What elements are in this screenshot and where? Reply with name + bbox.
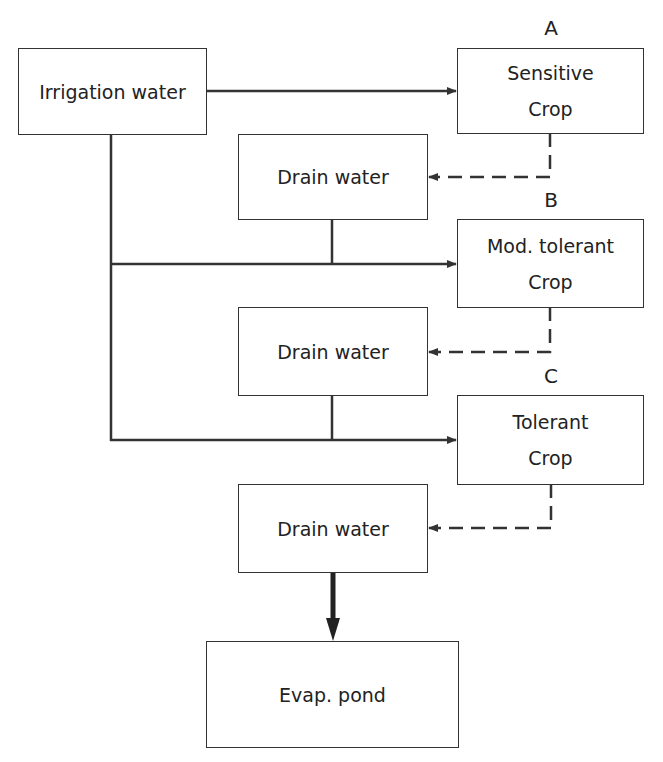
sensitive-crop-line2: Crop (528, 91, 572, 127)
sensitive-crop-node: Sensitive Crop (457, 48, 644, 134)
evap-pond-node: Evap. pond (206, 641, 459, 748)
drain-water-label-3: Drain water (277, 511, 389, 547)
tag-a: A (536, 16, 566, 40)
irrigation-water-label: Irrigation water (39, 74, 185, 110)
mod-tolerant-crop-node: Mod. tolerant Crop (457, 219, 644, 308)
tolerant-crop-line1: Tolerant (513, 404, 589, 440)
drain-water-node-2: Drain water (238, 307, 428, 396)
mod-tolerant-crop-line1: Mod. tolerant (487, 228, 614, 264)
tolerant-crop-node: Tolerant Crop (457, 395, 644, 485)
dashed-sensitive-to-drain1 (429, 133, 550, 177)
thick-arrowhead (326, 618, 340, 641)
drain-water-node-1: Drain water (238, 134, 428, 220)
drain-water-label-1: Drain water (277, 159, 389, 195)
mod-tolerant-crop-line2: Crop (528, 264, 572, 300)
evap-pond-label: Evap. pond (279, 677, 386, 713)
dashed-tolerant-to-drain3 (429, 484, 551, 528)
dashed-modtolerant-to-drain2 (429, 307, 550, 352)
drain-water-label-2: Drain water (277, 334, 389, 370)
tag-c: C (536, 364, 566, 388)
sensitive-crop-line1: Sensitive (507, 55, 594, 91)
tag-b: B (536, 188, 566, 212)
tolerant-crop-line2: Crop (528, 440, 572, 476)
drain-water-node-3: Drain water (238, 484, 428, 573)
irrigation-water-node: Irrigation water (18, 48, 207, 135)
